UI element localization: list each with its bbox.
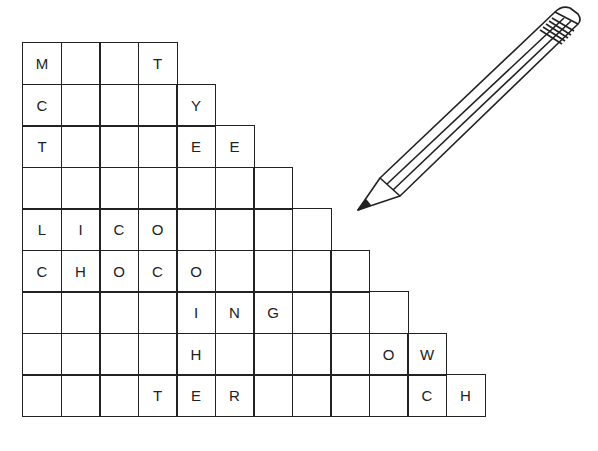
grid-cell[interactable] xyxy=(215,167,255,210)
grid-cell[interactable] xyxy=(176,208,216,251)
grid-cell[interactable]: O xyxy=(176,250,216,293)
grid-cell[interactable] xyxy=(330,250,370,293)
grid-cell[interactable] xyxy=(22,291,62,334)
grid-cell[interactable] xyxy=(61,167,101,210)
grid-cell[interactable] xyxy=(61,291,101,334)
grid-cell[interactable] xyxy=(253,208,293,251)
grid-cell[interactable] xyxy=(61,84,101,127)
grid-cell[interactable] xyxy=(215,208,255,251)
grid-cell[interactable]: N xyxy=(215,291,255,334)
grid-cell[interactable]: M xyxy=(22,42,62,85)
grid-cell[interactable]: O xyxy=(99,250,139,293)
grid-cell[interactable] xyxy=(292,208,332,251)
grid-cell[interactable] xyxy=(22,333,62,376)
grid-cell[interactable] xyxy=(99,167,139,210)
grid-cell[interactable] xyxy=(330,374,370,417)
grid-cell[interactable] xyxy=(138,333,178,376)
grid-cell[interactable] xyxy=(215,250,255,293)
grid-cell[interactable] xyxy=(99,42,139,85)
grid-cell[interactable] xyxy=(215,333,255,376)
grid-cell[interactable] xyxy=(330,333,370,376)
grid-cell[interactable] xyxy=(176,167,216,210)
grid-cell[interactable]: H xyxy=(446,374,486,417)
grid-cell[interactable] xyxy=(253,167,293,210)
grid-cell[interactable]: W xyxy=(407,333,447,376)
grid-cell[interactable]: E xyxy=(176,125,216,168)
grid-cell[interactable]: R xyxy=(215,374,255,417)
pencil-icon xyxy=(340,0,598,230)
grid-cell[interactable]: O xyxy=(138,208,178,251)
grid-cell[interactable]: T xyxy=(22,125,62,168)
grid-cell[interactable] xyxy=(292,333,332,376)
grid-cell[interactable] xyxy=(292,291,332,334)
grid-cell[interactable]: I xyxy=(176,291,216,334)
grid-cell[interactable] xyxy=(99,84,139,127)
grid-cell[interactable] xyxy=(253,374,293,417)
grid-cell[interactable] xyxy=(292,374,332,417)
grid-cell[interactable]: C xyxy=(22,84,62,127)
grid-cell[interactable]: C xyxy=(407,374,447,417)
grid-cell[interactable] xyxy=(369,374,409,417)
grid-cell[interactable] xyxy=(22,374,62,417)
grid-cell[interactable]: C xyxy=(22,250,62,293)
grid-cell[interactable]: G xyxy=(253,291,293,334)
grid-cell[interactable] xyxy=(61,333,101,376)
grid-row: CHOCO xyxy=(22,250,484,293)
grid-cell[interactable] xyxy=(330,291,370,334)
grid-cell[interactable]: T xyxy=(138,42,178,85)
grid-row: ING xyxy=(22,291,484,334)
grid-cell[interactable]: H xyxy=(176,333,216,376)
grid-cell[interactable]: O xyxy=(369,333,409,376)
grid-cell[interactable]: C xyxy=(138,250,178,293)
grid-cell[interactable] xyxy=(99,125,139,168)
grid-cell[interactable] xyxy=(61,42,101,85)
grid-cell[interactable]: L xyxy=(22,208,62,251)
grid-cell[interactable]: E xyxy=(215,125,255,168)
grid-cell[interactable] xyxy=(138,167,178,210)
grid-cell[interactable] xyxy=(138,125,178,168)
grid-cell[interactable] xyxy=(99,291,139,334)
grid-cell[interactable] xyxy=(292,250,332,293)
grid-cell[interactable]: T xyxy=(138,374,178,417)
grid-cell[interactable] xyxy=(253,250,293,293)
grid-cell[interactable]: E xyxy=(176,374,216,417)
grid-cell[interactable]: H xyxy=(61,250,101,293)
grid-cell[interactable] xyxy=(369,291,409,334)
grid-cell[interactable] xyxy=(138,84,178,127)
grid-cell[interactable] xyxy=(61,125,101,168)
grid-cell[interactable]: C xyxy=(99,208,139,251)
grid-cell[interactable] xyxy=(99,374,139,417)
grid-cell[interactable]: Y xyxy=(176,84,216,127)
grid-row: TERCH xyxy=(22,374,484,417)
grid-row: HOW xyxy=(22,333,484,376)
grid-cell[interactable] xyxy=(138,291,178,334)
grid-cell[interactable] xyxy=(253,333,293,376)
grid-cell[interactable] xyxy=(99,333,139,376)
grid-cell[interactable] xyxy=(22,167,62,210)
grid-cell[interactable]: I xyxy=(61,208,101,251)
grid-cell[interactable] xyxy=(61,374,101,417)
